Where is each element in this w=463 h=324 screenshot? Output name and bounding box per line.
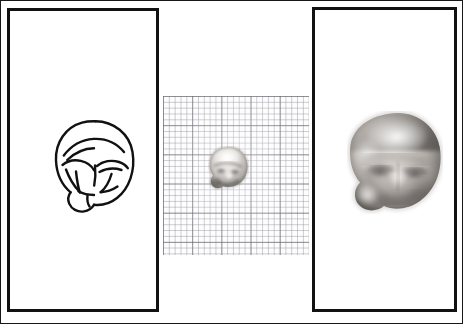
specimen-magnified [347,111,443,214]
eyelid-fold-left [63,160,95,170]
specimen-small-eye-left [216,168,226,175]
eye-crease-right [100,169,122,172]
nasal-bridge-line [94,166,95,186]
brow-ridge-line-secondary [67,148,94,160]
fetal-head-line-drawing [51,119,137,217]
figure-root [0,0,463,324]
cheek-fold-left-lower [79,191,95,195]
eyelid-fold-right [97,161,128,168]
magnified-photo-panel [312,7,457,312]
head-outline-path-left [56,121,96,192]
specimen-small-lobe-shadow [211,178,221,187]
line-drawing-panel [7,8,159,312]
specimen-small-nose-highlight [225,172,233,180]
chin-lobe-line [87,196,89,207]
specimen-actual-size [208,146,249,190]
specimen-large-lower-right-shadow [407,177,443,209]
